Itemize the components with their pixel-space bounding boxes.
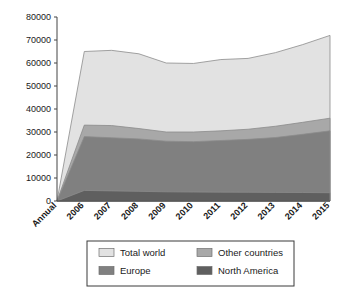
legend-swatch-north-america [197,267,212,275]
y-tick-label: 50000 [26,81,51,91]
x-tick-label: 2007 [92,200,113,221]
legend-swatch-europe [99,267,114,275]
x-tick-label: 2012 [228,200,249,221]
x-tick-label: 2009 [146,200,167,221]
chart-canvas: 0100002000030000400005000060000700008000… [0,0,342,291]
plot-series-group [57,35,330,201]
legend-swatch-total-world [99,249,114,257]
x-tick-label: 2006 [64,200,85,221]
legend-label-total-world: Total world [120,247,165,258]
y-tick-label: 10000 [26,173,51,183]
x-tick-label: Annual [30,200,59,229]
area-chart: 0100002000030000400005000060000700008000… [0,0,342,291]
x-axis-tick-labels: Annual2006200720082009201020112012201320… [30,200,332,229]
x-tick-label: 2008 [119,200,140,221]
x-tick-label: 2014 [283,200,304,221]
legend-swatch-other-countries [197,249,212,257]
y-tick-label: 60000 [26,58,51,68]
chart-legend: Total worldOther countriesEuropeNorth Am… [87,241,294,286]
x-tick-label: 2011 [201,200,222,221]
legend-label-other-countries: Other countries [218,247,283,258]
y-tick-label: 30000 [26,127,51,137]
y-tick-label: 70000 [26,35,51,45]
legend-label-europe: Europe [120,265,151,276]
x-tick-label: 2015 [310,200,331,221]
x-tick-label: 2013 [256,200,277,221]
x-tick-label: 2010 [174,200,195,221]
legend-label-north-america: North America [218,265,279,276]
y-tick-label: 20000 [26,150,51,160]
y-tick-label: 80000 [26,12,51,22]
y-axis-tick-labels: 0100002000030000400005000060000700008000… [26,12,51,206]
y-tick-label: 40000 [26,104,51,114]
